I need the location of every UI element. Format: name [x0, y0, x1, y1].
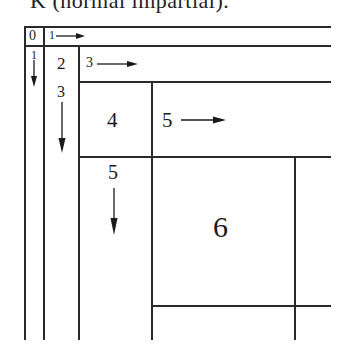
arrow-right-icon	[56, 31, 86, 41]
arrow-down-icon	[29, 60, 39, 88]
cell-1-right-label: 1	[49, 29, 55, 41]
grid-line-h-2	[78, 81, 331, 83]
cell-5-down-label: 5	[108, 162, 118, 182]
grid-line-h-4	[151, 305, 331, 307]
cell-3-down-label: 3	[57, 84, 65, 100]
arrow-right-icon	[97, 59, 139, 69]
grid-line-h-top	[24, 26, 331, 28]
arrow-down-icon	[56, 102, 68, 154]
caption-text: K (normal impartial).	[30, 0, 229, 14]
arrow-right-icon	[181, 114, 227, 126]
grid-line-v-4	[294, 156, 296, 340]
grid-line-v-1	[43, 26, 45, 340]
cell-6-label: 6	[213, 212, 228, 242]
cell-0-label: 0	[29, 29, 36, 43]
grid-line-v-3	[151, 81, 153, 340]
cell-5-right-label: 5	[162, 110, 173, 131]
cell-4-label: 4	[107, 110, 118, 131]
cell-3-right-label: 3	[86, 56, 93, 70]
grid-line-v-left	[24, 26, 26, 340]
arrow-down-icon	[108, 188, 120, 236]
grid-line-h-1	[24, 45, 331, 47]
grid-line-v-2	[78, 45, 80, 340]
cell-2-label: 2	[57, 55, 66, 72]
